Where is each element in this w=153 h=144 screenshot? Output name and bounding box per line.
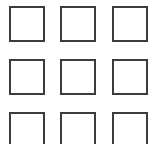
square-cell[interactable] [112,6,148,42]
square-cell[interactable] [9,6,45,42]
square-cell[interactable] [60,6,96,42]
square-cell[interactable] [112,112,148,144]
grid-canvas [0,0,153,144]
square-cell[interactable] [60,112,96,144]
square-cell[interactable] [9,59,45,95]
square-cell[interactable] [112,59,148,95]
square-cell[interactable] [60,59,96,95]
square-cell[interactable] [9,112,45,144]
